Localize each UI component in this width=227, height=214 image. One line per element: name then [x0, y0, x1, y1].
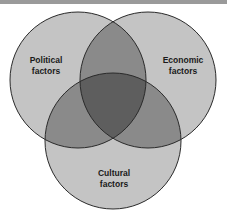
- economic-label-line1: Economic: [163, 55, 204, 65]
- venn-diagram: Political factors Economic factors Cultu…: [0, 0, 227, 214]
- cultural-label-line1: Cultural: [98, 168, 130, 178]
- political-label-line2: factors: [32, 66, 61, 76]
- economic-label-line2: factors: [169, 66, 198, 76]
- political-label-line1: Political: [30, 55, 63, 65]
- cultural-label-line2: factors: [100, 179, 129, 189]
- venn-svg: Political factors Economic factors Cultu…: [0, 0, 227, 214]
